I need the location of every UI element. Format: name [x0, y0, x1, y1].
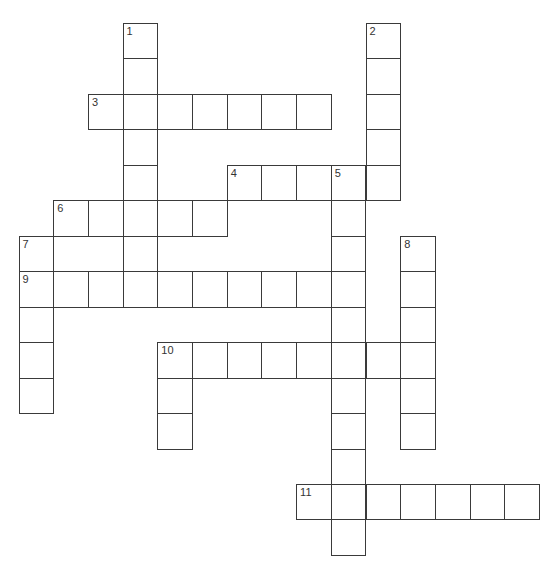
- crossword-cell[interactable]: 2: [366, 23, 402, 60]
- crossword-cell[interactable]: 11: [296, 484, 332, 521]
- crossword-cell[interactable]: [400, 271, 436, 308]
- crossword-cell[interactable]: [123, 94, 159, 131]
- crossword-cell[interactable]: [400, 342, 436, 379]
- crossword-cell[interactable]: [123, 236, 159, 273]
- crossword-cell[interactable]: [296, 165, 332, 202]
- crossword-cell[interactable]: [123, 58, 159, 95]
- crossword-cell[interactable]: [296, 94, 332, 131]
- crossword-cell[interactable]: [261, 342, 297, 379]
- crossword-cell[interactable]: [192, 342, 228, 379]
- crossword-cell[interactable]: [227, 342, 263, 379]
- crossword-cell[interactable]: [470, 484, 506, 521]
- crossword-cell[interactable]: [192, 200, 228, 237]
- clue-number: 4: [231, 168, 237, 179]
- crossword-cell[interactable]: [400, 307, 436, 344]
- clue-number: 11: [300, 487, 311, 498]
- crossword-cell[interactable]: [400, 378, 436, 415]
- crossword-cell[interactable]: [366, 342, 402, 379]
- crossword-cell[interactable]: [19, 307, 55, 344]
- crossword-cell[interactable]: [157, 200, 193, 237]
- crossword-cell[interactable]: 4: [227, 165, 263, 202]
- crossword-cell[interactable]: [331, 342, 367, 379]
- crossword-cell[interactable]: [192, 94, 228, 131]
- crossword-cell[interactable]: [400, 413, 436, 450]
- crossword-cell[interactable]: [366, 165, 402, 202]
- crossword-cell[interactable]: [19, 342, 55, 379]
- crossword-cell[interactable]: 3: [88, 94, 124, 131]
- crossword-cell[interactable]: 10: [157, 342, 193, 379]
- crossword-cell[interactable]: [296, 342, 332, 379]
- crossword-cell[interactable]: [366, 94, 402, 131]
- crossword-cell[interactable]: [435, 484, 471, 521]
- crossword-cell[interactable]: [331, 413, 367, 450]
- crossword-cell[interactable]: [123, 200, 159, 237]
- crossword-cell[interactable]: [53, 271, 89, 308]
- crossword-cell[interactable]: [227, 271, 263, 308]
- clue-number: 6: [57, 203, 63, 214]
- clue-number: 3: [92, 97, 98, 108]
- crossword-cell[interactable]: [19, 378, 55, 415]
- crossword-cell[interactable]: [261, 94, 297, 131]
- crossword-cell[interactable]: [192, 271, 228, 308]
- crossword-cell[interactable]: [366, 58, 402, 95]
- crossword-cell[interactable]: [123, 165, 159, 202]
- crossword-cell[interactable]: [331, 236, 367, 273]
- clue-number: 7: [23, 239, 29, 250]
- clue-number: 2: [370, 26, 376, 37]
- crossword-cell[interactable]: [331, 449, 367, 486]
- crossword-cell[interactable]: [123, 271, 159, 308]
- crossword-cell[interactable]: 1: [123, 23, 159, 60]
- crossword-cell[interactable]: [157, 94, 193, 131]
- crossword-cell[interactable]: [331, 484, 367, 521]
- crossword-cell[interactable]: [261, 165, 297, 202]
- crossword-cell[interactable]: [331, 200, 367, 237]
- crossword-cell[interactable]: [157, 271, 193, 308]
- crossword-cell[interactable]: [227, 94, 263, 131]
- crossword-cell[interactable]: [366, 484, 402, 521]
- crossword-cell[interactable]: 8: [400, 236, 436, 273]
- crossword-cell[interactable]: [400, 484, 436, 521]
- crossword-cell[interactable]: [123, 129, 159, 166]
- crossword-cell[interactable]: [261, 271, 297, 308]
- crossword-cell[interactable]: [504, 484, 540, 521]
- crossword-cell[interactable]: [88, 271, 124, 308]
- crossword-cell[interactable]: [157, 413, 193, 450]
- crossword-grid: 1234567981011: [0, 0, 558, 572]
- crossword-cell[interactable]: [88, 200, 124, 237]
- crossword-cell[interactable]: 9: [19, 271, 55, 308]
- crossword-cell[interactable]: [331, 519, 367, 556]
- clue-number: 8: [404, 239, 410, 250]
- crossword-cell[interactable]: [157, 378, 193, 415]
- crossword-cell[interactable]: [366, 129, 402, 166]
- clue-number: 10: [161, 345, 173, 356]
- crossword-cell[interactable]: 6: [53, 200, 89, 237]
- crossword-cell[interactable]: 7: [19, 236, 55, 273]
- crossword-cell[interactable]: [331, 271, 367, 308]
- clue-number: 1: [127, 26, 133, 37]
- clue-number: 5: [335, 168, 341, 179]
- crossword-cell[interactable]: [296, 271, 332, 308]
- crossword-cell[interactable]: [331, 307, 367, 344]
- clue-number: 9: [23, 274, 29, 285]
- crossword-cell[interactable]: 5: [331, 165, 367, 202]
- crossword-cell[interactable]: [331, 378, 367, 415]
